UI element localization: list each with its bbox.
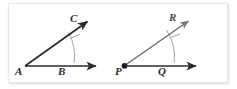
diagram-angle-A <box>25 22 96 67</box>
upper-ray-P <box>124 21 189 66</box>
point-label-P: P <box>115 66 122 77</box>
vertex-dot-P <box>122 63 128 69</box>
point-label-B: B <box>58 66 65 77</box>
point-label-Q: Q <box>158 66 166 77</box>
diagram-angle-P <box>122 21 196 69</box>
point-label-R: R <box>169 12 176 23</box>
point-label-A: A <box>15 66 22 77</box>
tick-mark-A <box>71 35 80 39</box>
point-label-C: C <box>70 13 77 24</box>
figure-root: A B C P Q R <box>0 0 237 89</box>
tick-mark-P <box>171 34 181 38</box>
upper-ray-A <box>25 22 88 67</box>
